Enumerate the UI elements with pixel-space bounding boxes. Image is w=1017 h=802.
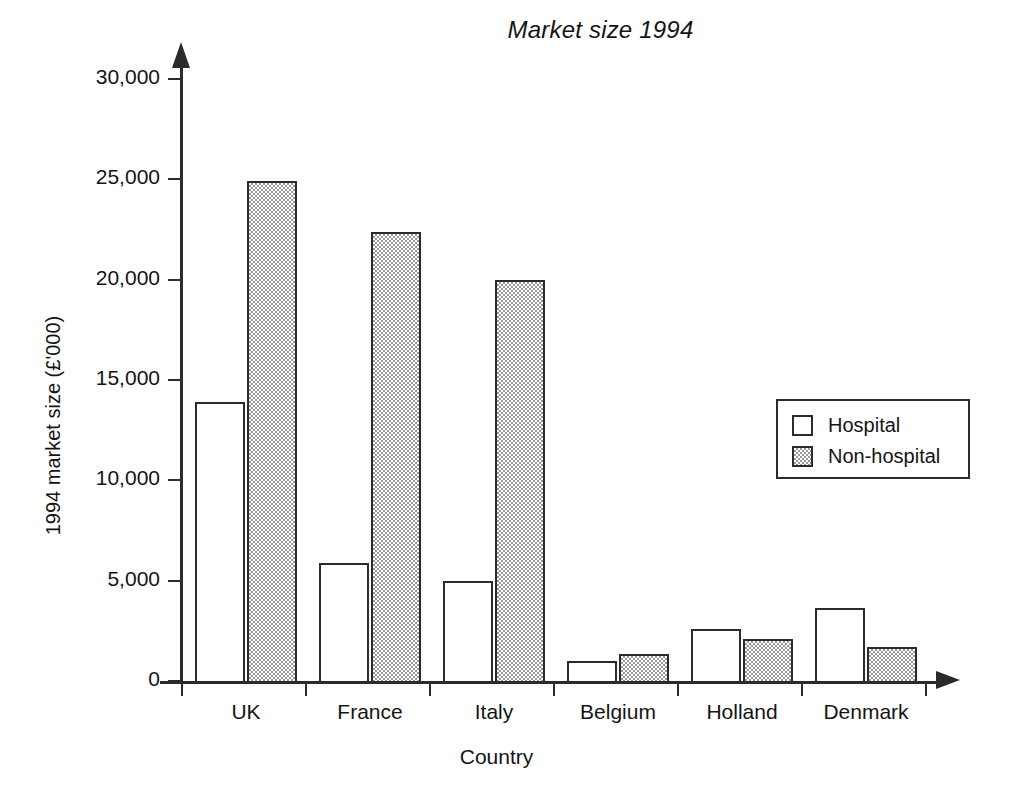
- y-axis-tick-label: 25,000: [50, 165, 160, 189]
- y-axis-tick-label: 0: [50, 667, 160, 691]
- x-axis-arrow-icon: [936, 671, 960, 689]
- y-axis-tick: [168, 580, 182, 582]
- legend-swatch-nonhospital-icon: [792, 446, 813, 467]
- x-axis-tick: [925, 681, 927, 696]
- x-axis-tick: [305, 681, 307, 696]
- y-axis-tick: [168, 379, 182, 381]
- bar-belgium-non-hospital: [619, 654, 669, 683]
- x-axis-title-text: Country: [460, 745, 534, 769]
- y-axis-tick: [168, 479, 182, 481]
- x-axis-label-uk: UK: [231, 700, 260, 724]
- x-axis-label-belgium: Belgium: [580, 700, 656, 724]
- bar-holland-non-hospital: [743, 639, 793, 683]
- y-axis-tick: [168, 178, 182, 180]
- bar-france-hospital: [319, 563, 369, 683]
- chart-title: Market size 1994: [0, 16, 1017, 44]
- x-axis-label-holland: Holland: [706, 700, 777, 724]
- y-axis-tick-label: 10,000: [50, 466, 160, 490]
- y-axis-tick: [168, 680, 182, 682]
- legend-box: HospitalNon-hospital: [776, 399, 970, 479]
- bar-chart-figure: Market size 1994 1994 market size (£'000…: [0, 0, 1017, 802]
- legend-item-nonhospital[interactable]: Non-hospital: [792, 441, 968, 472]
- plot-area: [181, 62, 937, 683]
- bar-denmark-hospital: [815, 608, 865, 683]
- x-axis-label-italy: Italy: [475, 700, 514, 724]
- x-axis-tick: [429, 681, 431, 696]
- x-axis-tick: [801, 681, 803, 696]
- y-axis-tick-label: 15,000: [50, 366, 160, 390]
- y-axis-tick-label: 30,000: [50, 65, 160, 89]
- bar-italy-non-hospital: [495, 280, 545, 683]
- y-axis-tick-label: 20,000: [50, 266, 160, 290]
- chart-title-text: Market size 1994: [508, 16, 694, 44]
- x-axis-tick: [553, 681, 555, 696]
- x-axis-tick: [677, 681, 679, 696]
- legend-label: Hospital: [828, 414, 900, 437]
- bar-uk-hospital: [195, 402, 245, 683]
- bar-italy-hospital: [443, 581, 493, 683]
- y-axis-tick: [168, 279, 182, 281]
- bar-holland-hospital: [691, 629, 741, 683]
- legend-swatch-hospital-icon: [792, 415, 813, 436]
- y-axis-tick-label: 5,000: [50, 567, 160, 591]
- bar-france-non-hospital: [371, 232, 421, 684]
- bar-belgium-hospital: [567, 661, 617, 683]
- y-axis-title: 1994 market size (£'000): [42, 261, 65, 591]
- bar-uk-non-hospital: [247, 181, 297, 683]
- bar-denmark-non-hospital: [867, 647, 917, 683]
- x-axis-label-france: France: [337, 700, 402, 724]
- y-axis-tick: [168, 78, 182, 80]
- legend-label: Non-hospital: [828, 445, 940, 468]
- x-axis-label-denmark: Denmark: [823, 700, 908, 724]
- legend-item-hospital[interactable]: Hospital: [792, 410, 968, 441]
- x-axis-tick: [181, 681, 183, 696]
- x-axis-title: Country: [0, 745, 1017, 769]
